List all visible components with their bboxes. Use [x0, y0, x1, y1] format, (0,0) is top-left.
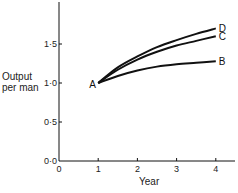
series-lines — [98, 28, 216, 83]
x-tick-label: 3 — [174, 164, 179, 174]
start-point-label: A — [89, 79, 96, 90]
series-label-C: C — [219, 31, 226, 42]
labels: DCBAYearOutputper man — [2, 23, 226, 187]
y-axis-label: per man — [2, 82, 39, 93]
series-label-B: B — [219, 56, 226, 67]
y-tick-label: 1·0 — [44, 78, 57, 88]
chart: 012340·00·51·01·5 DCBAYearOutputper man — [0, 0, 238, 193]
x-axis-label: Year — [139, 176, 160, 187]
x-tick-label: 1 — [96, 164, 101, 174]
y-tick-label: 1·5 — [44, 39, 57, 49]
x-tick-label: 4 — [213, 164, 218, 174]
y-axis-label: Output — [2, 71, 32, 82]
x-tick-label: 0 — [56, 164, 61, 174]
axes — [59, 2, 235, 161]
y-tick-label: 0·5 — [44, 117, 57, 127]
y-tick-label: 0·0 — [44, 156, 57, 166]
series-line-D — [98, 28, 216, 83]
x-tick-label: 2 — [135, 164, 140, 174]
